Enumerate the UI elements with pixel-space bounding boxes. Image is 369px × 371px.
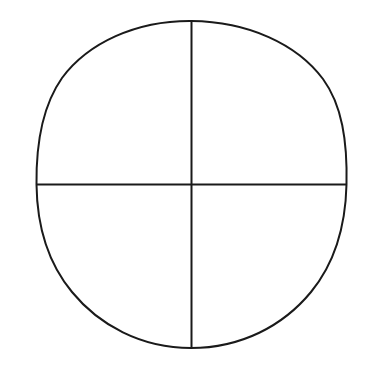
figure-canvas bbox=[0, 0, 369, 371]
quadrant-circle-diagram bbox=[0, 0, 369, 371]
